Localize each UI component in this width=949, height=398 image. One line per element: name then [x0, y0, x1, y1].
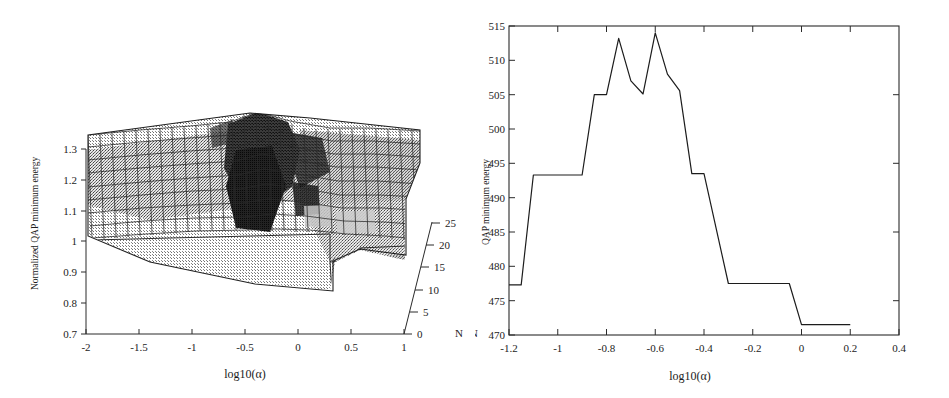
right-xtick-label: -1: [553, 342, 562, 354]
right-y-ticks: 470 475 480 485 490 495 500 505 510 515: [489, 20, 900, 341]
surface-shade-band: [332, 255, 405, 292]
left-xtick-label: 1: [401, 341, 407, 353]
left-ntick-label: 10: [428, 284, 440, 296]
left-xtick-label: 0: [295, 341, 301, 353]
right-y-axis-title: QAP minimum energy: [481, 159, 491, 245]
right-ytick-label: 485: [489, 226, 506, 238]
right-x-ticks: -1.2 -1 -0.8 -0.6 -0.4 -0.2 0 0.2 0.4: [500, 26, 906, 354]
left-ytick-label: 1.1: [63, 205, 77, 217]
left-xtick-label: 0.5: [344, 341, 358, 353]
surface-plot-svg: 0.7 0.8 0.9 1 1.1 1.2 1.3 -2 -1.5 -1 -0.…: [0, 0, 475, 398]
right-xtick-label: -0.8: [598, 342, 616, 354]
right-plot-frame: [509, 26, 899, 335]
right-xtick-label: -0.2: [744, 342, 761, 354]
left-xtick-label: -2: [81, 341, 90, 353]
left-figure-surface-plot: 0.7 0.8 0.9 1 1.1 1.2 1.3 -2 -1.5 -1 -0.…: [0, 0, 475, 398]
right-n-marker-label: N: [475, 327, 478, 339]
right-xtick-label: -0.4: [695, 342, 713, 354]
left-ytick-label: 1.3: [63, 143, 77, 155]
left-ytick-label: 1: [72, 235, 78, 247]
left-ntick-label: 0: [417, 328, 423, 340]
right-xtick-label: 0.4: [892, 342, 906, 354]
left-xtick-label: -0.5: [236, 341, 254, 353]
left-ytick-label: 0.7: [63, 328, 77, 340]
left-x-axis-title: log10(α): [224, 367, 266, 381]
left-y-axis-title: Normalized QAP minimum energy: [30, 157, 40, 290]
right-ytick-label: 500: [489, 123, 506, 135]
right-xtick-label: 0: [799, 342, 805, 354]
right-ytick-label: 490: [489, 192, 506, 204]
left-ytick-label: 0.9: [63, 266, 77, 278]
left-ytick-label: 0.8: [63, 297, 77, 309]
left-xtick-label: -1: [187, 341, 196, 353]
plot-box: [509, 26, 899, 335]
left-ntick-label: 15: [434, 261, 446, 273]
right-ytick-label: 470: [489, 329, 506, 341]
right-ytick-label: 480: [489, 260, 506, 272]
right-xtick-label: -1.2: [500, 342, 517, 354]
left-ntick-label: 25: [445, 217, 457, 229]
left-x-ticks: -2 -1.5 -1 -0.5 0 0.5 1: [81, 329, 406, 353]
right-figure-line-plot: 470 475 480 485 490 495 500 505 510 515: [475, 0, 949, 398]
surface-mesh: [80, 100, 440, 310]
left-ntick-label: 5: [423, 306, 429, 318]
left-n-axis-title: N: [455, 327, 463, 339]
right-ytick-label: 495: [489, 157, 506, 169]
left-xtick-label: -1.5: [130, 341, 148, 353]
right-xtick-label: -0.6: [647, 342, 665, 354]
right-ytick-label: 505: [489, 89, 506, 101]
left-n-ticks: 0 5 10 15 20 25: [404, 217, 457, 340]
right-ytick-label: 475: [489, 295, 506, 307]
energy-curve: [509, 33, 850, 325]
left-ytick-label: 1.2: [63, 174, 77, 186]
line-plot-svg: 470 475 480 485 490 495 500 505 510 515: [475, 0, 949, 398]
left-ntick-label: 20: [439, 239, 451, 251]
right-ytick-label: 515: [489, 20, 506, 32]
right-xtick-label: 0.2: [843, 342, 857, 354]
right-ytick-label: 510: [489, 54, 506, 66]
left-y-ticks: 0.7 0.8 0.9 1 1.1 1.2 1.3: [63, 143, 86, 340]
right-x-axis-title: log10(α): [669, 369, 711, 383]
